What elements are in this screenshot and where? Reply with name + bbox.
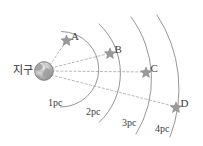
- star-label-B: B: [115, 44, 122, 55]
- distance-label-1pc: 1pc: [48, 98, 62, 108]
- arc-2pc: [99, 24, 121, 122]
- distance-label-2pc: 2pc: [86, 107, 100, 117]
- earth-label: 지구: [13, 65, 33, 76]
- star-label-D: D: [181, 98, 189, 109]
- star-label-C: C: [151, 63, 158, 74]
- parallax-diagram-figure: 지구 A B C D 1pc 2pc 3pc 4pc: [0, 0, 203, 146]
- sight-line-to-B: [51, 53, 111, 68]
- distance-label-4pc: 4pc: [155, 124, 169, 134]
- sight-line-group: [50, 40, 177, 107]
- star-label-A: A: [71, 31, 79, 42]
- distance-label-3pc: 3pc: [122, 118, 136, 128]
- arc-4pc: [157, 15, 179, 137]
- sight-line-to-C: [52, 71, 147, 72]
- earth-globe-icon: [34, 62, 53, 81]
